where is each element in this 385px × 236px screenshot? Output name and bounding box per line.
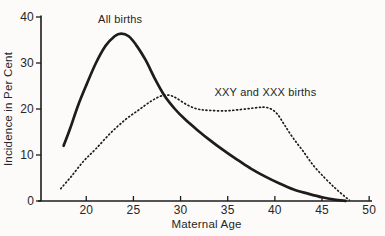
line-chart: 20253035404550010203040Maternal AgeIncid… (0, 0, 385, 236)
x-tick-label: 45 (315, 203, 329, 217)
chart-figure: 20253035404550010203040Maternal AgeIncid… (0, 0, 385, 236)
x-tick-label: 30 (174, 203, 188, 217)
y-tick-label: 40 (20, 10, 34, 24)
x-tick-label: 50 (362, 203, 376, 217)
y-tick-label: 0 (27, 194, 34, 208)
x-tick-label: 40 (268, 203, 282, 217)
y-tick-label: 30 (20, 56, 34, 70)
x-axis-title: Maternal Age (171, 218, 241, 230)
curve-xxy-and-xxx-births (61, 95, 350, 200)
annotation-all-births: All births (98, 13, 142, 25)
x-tick-label: 25 (127, 203, 141, 217)
curve-all-births (64, 34, 346, 201)
y-tick-label: 20 (20, 102, 34, 116)
y-tick-label: 10 (20, 148, 34, 162)
annotation-xxy-and-xxx-births: XXY and XXX births (215, 86, 317, 98)
x-tick-label: 20 (79, 203, 93, 217)
x-tick-label: 35 (221, 203, 235, 217)
y-axis-title: Incidence in Per Cent (2, 51, 14, 166)
